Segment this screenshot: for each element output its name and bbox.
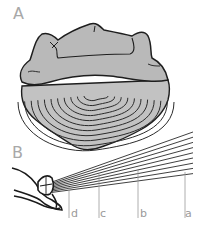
- panel-a-drawing: [18, 23, 174, 150]
- radiating-line: [52, 158, 193, 189]
- figure-canvas: [0, 0, 200, 230]
- panel-label-a: A: [13, 4, 24, 23]
- marker-label-d: d: [71, 207, 78, 220]
- shell-upper-plate: [20, 23, 168, 84]
- panel-label-b: B: [12, 143, 23, 162]
- marker-label-c: c: [100, 207, 106, 220]
- radiating-line: [52, 142, 193, 184]
- marker-label-a: a: [185, 207, 192, 220]
- marker-label-b: b: [140, 207, 147, 220]
- radiating-line: [52, 153, 193, 187]
